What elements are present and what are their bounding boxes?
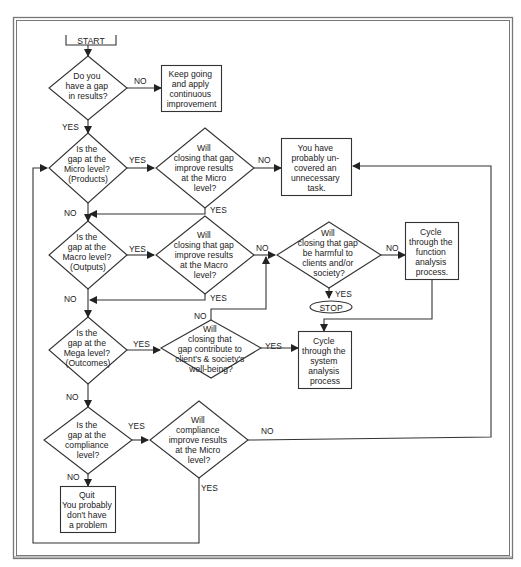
edge-label-no: NO: [64, 208, 77, 218]
edge-label-no: NO: [66, 392, 79, 402]
edge-label-yes: YES: [133, 339, 150, 349]
decision-improve-micro: Will closing that gap improve results at…: [156, 128, 254, 208]
stop-terminal: STOP: [310, 301, 352, 313]
decision-harmful: Will closing that gap be harmful to clie…: [277, 222, 381, 288]
edge-label-yes: YES: [129, 244, 146, 254]
edge-label-no: NO: [386, 243, 399, 253]
decision-micro-level: Is the gap at the Micro level? (Products…: [49, 133, 127, 203]
svg-text:Keep going and apply: Keep going and apply continuous improvem…: [167, 69, 217, 109]
svg-text:Will closing that: Will closing that gap contribute to clie…: [175, 324, 247, 374]
edge-label-yes: YES: [210, 205, 227, 215]
box-system-analysis: Cycle through the system analysis proces…: [299, 332, 352, 389]
edge-label-yes: YES: [128, 421, 145, 431]
edge-label-no: NO: [256, 243, 269, 253]
edge-label-no: NO: [64, 294, 77, 304]
box-quit: Quit You probably don't have a problem: [61, 487, 116, 533]
decision-mega-level: Is the gap at the Mega level? (Outcomes): [49, 317, 127, 384]
decision-gap-in-results: Do you have a gap in results?: [49, 56, 127, 120]
edge-label-yes: YES: [265, 341, 282, 351]
box-function-analysis: Cycle through the function analysis proc…: [406, 223, 459, 280]
decision-macro-level: Is the gap at the Macro level? (Outputs): [49, 221, 127, 289]
edge-label-no: NO: [261, 426, 274, 436]
edge-label-no: NO: [134, 76, 147, 86]
decision-compliance-level: Is the gap at the compliance level?: [44, 407, 132, 474]
decision-compliance-improve: Will compliance improve results at the M…: [150, 401, 248, 478]
decision-improve-macro: Will closing that gap improve results at…: [156, 216, 254, 294]
edge-label-no: NO: [67, 472, 80, 482]
box-unnecessary-task: You have probably un- covered an unneces…: [282, 139, 352, 196]
edge-label-yes: YES: [335, 289, 352, 299]
stop-label: STOP: [319, 303, 343, 313]
edge-label-yes: YES: [129, 155, 146, 165]
edge-label-yes: YES: [201, 483, 218, 493]
edge-label-no: NO: [258, 155, 271, 165]
start-terminal: START: [66, 35, 116, 46]
edge-label-no: NO: [194, 311, 207, 321]
edge-label-yes: YES: [62, 122, 79, 132]
box-keep-going: Keep going and apply continuous improvem…: [162, 66, 222, 112]
flowchart-diagram: START Do you have a gap in results? NO K…: [0, 0, 521, 567]
decision-wellbeing: Will closing that gap contribute to clie…: [161, 320, 261, 378]
edge-label-yes: YES: [210, 293, 227, 303]
start-label: START: [77, 36, 105, 46]
